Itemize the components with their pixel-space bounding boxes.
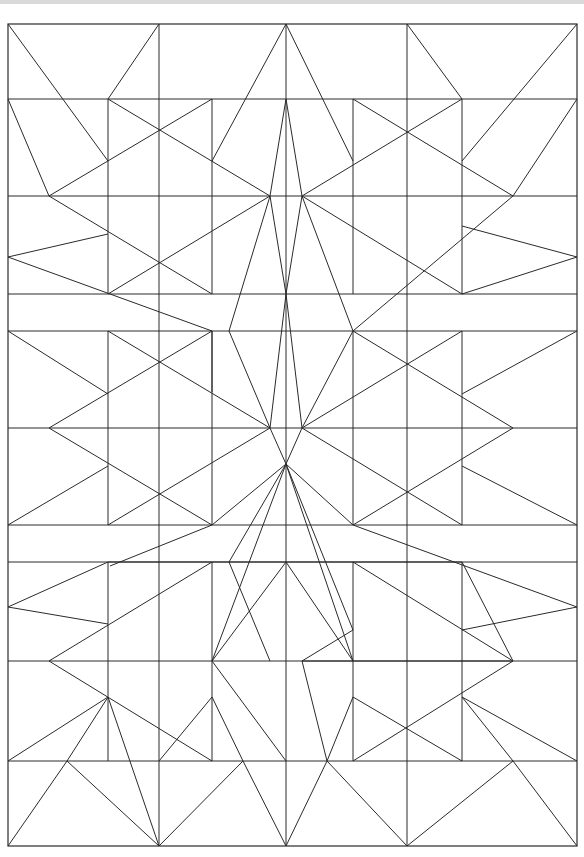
- diagonal-line: [286, 562, 353, 661]
- diagonal-lines: [8, 24, 577, 846]
- horizontal-grid-lines: [8, 99, 577, 761]
- diagonal-line: [353, 428, 513, 525]
- diagonal-line: [462, 697, 513, 761]
- diagonal-line: [462, 331, 577, 394]
- diagonal-line: [229, 562, 270, 661]
- diagonal-line: [462, 562, 513, 661]
- diagonal-line: [8, 466, 108, 525]
- diagonal-line: [462, 607, 577, 630]
- diagonal-line: [353, 99, 513, 196]
- diagonal-line: [407, 24, 462, 99]
- diagonal-line: [8, 24, 108, 161]
- diagonal-line: [8, 607, 108, 624]
- diagonal-line: [302, 630, 353, 661]
- diagonal-line: [286, 24, 353, 161]
- diagonal-line: [286, 99, 302, 196]
- diagonal-line: [462, 257, 577, 294]
- diagonal-line: [302, 331, 462, 428]
- diagonal-line: [327, 697, 353, 761]
- diagonal-line: [243, 761, 286, 846]
- diagonal-line: [8, 761, 67, 846]
- diagonal-line: [159, 697, 212, 761]
- diagonal-line: [302, 196, 353, 331]
- geometric-pattern-drawing: [0, 0, 584, 857]
- diagonal-line: [108, 24, 159, 99]
- outer-border: [8, 24, 577, 846]
- diagonal-line: [229, 196, 270, 331]
- diagonal-line: [67, 761, 159, 846]
- diagonal-line: [49, 661, 212, 761]
- diagonal-line: [8, 562, 108, 607]
- diagonal-line: [229, 464, 286, 562]
- diagonal-line: [270, 428, 286, 464]
- diagonal-line: [270, 294, 286, 428]
- diagonal-line: [108, 428, 270, 525]
- diagonal-line: [462, 226, 577, 257]
- diagonal-line: [353, 525, 577, 607]
- diagonal-line: [270, 196, 286, 294]
- diagonal-line: [212, 697, 243, 761]
- diagonal-line: [229, 331, 270, 428]
- diagonal-line: [159, 761, 243, 846]
- diagonal-line: [8, 234, 108, 257]
- diagonal-line: [108, 99, 270, 196]
- diagonal-line: [286, 196, 302, 294]
- diagonal-line: [353, 196, 513, 331]
- diagonal-line: [8, 99, 49, 196]
- diagonal-line: [108, 697, 159, 846]
- diagonal-line: [302, 661, 327, 761]
- diagonal-line: [286, 761, 327, 846]
- diagonal-line: [108, 196, 270, 294]
- diagonal-line: [110, 525, 212, 566]
- vertical-grid-lines: [108, 24, 462, 846]
- diagonal-line: [353, 562, 513, 661]
- diagonal-line: [8, 331, 108, 394]
- diagonal-line: [49, 331, 212, 428]
- diagonal-line: [8, 697, 108, 761]
- diagonal-line: [513, 761, 577, 846]
- diagonal-line: [462, 24, 577, 161]
- diagonal-line: [302, 428, 462, 525]
- diagonal-line: [302, 331, 353, 428]
- diagonal-line: [513, 99, 577, 196]
- diagonal-line: [49, 196, 212, 294]
- diagonal-line: [407, 761, 513, 846]
- diagonal-line: [212, 24, 286, 161]
- diagonal-line: [108, 331, 270, 428]
- diagonal-line: [286, 294, 302, 428]
- diagonal-line: [327, 761, 407, 846]
- diagonal-line: [286, 428, 302, 464]
- diagonal-line: [49, 562, 212, 661]
- diagonal-line: [286, 464, 353, 630]
- diagonal-line: [67, 697, 108, 761]
- diagonal-line: [302, 99, 462, 196]
- diagonal-line: [462, 466, 577, 525]
- diagonal-line: [462, 697, 577, 761]
- diagonal-line: [49, 428, 212, 525]
- diagonal-line: [270, 99, 286, 196]
- diagonal-line: [302, 196, 462, 294]
- diagonal-line: [212, 661, 286, 761]
